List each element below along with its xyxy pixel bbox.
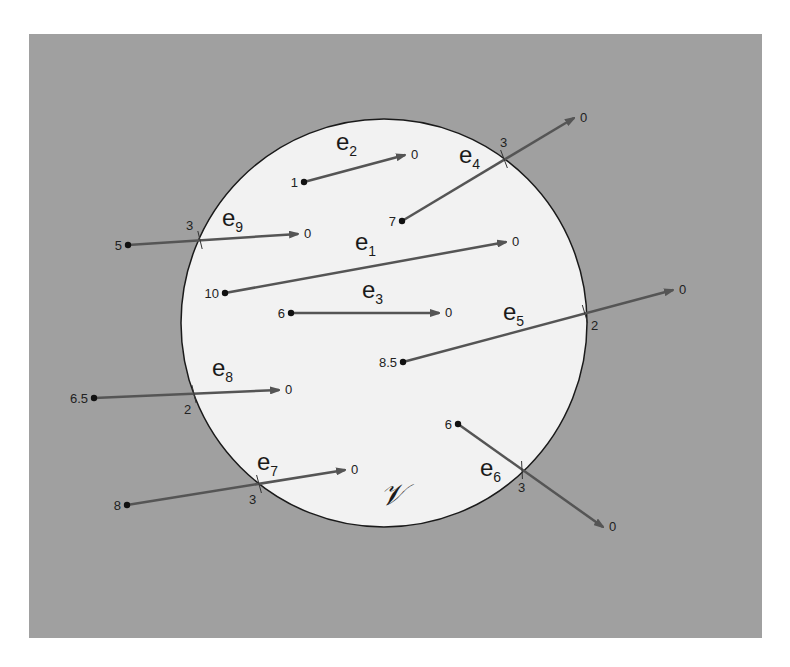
edge-end-value: 0 xyxy=(351,462,358,477)
boundary-crossing-value: 3 xyxy=(518,480,525,495)
edge-end-value: 0 xyxy=(411,147,418,162)
edge-start-value: 8.5 xyxy=(379,355,397,370)
edge-start-dot xyxy=(455,421,461,427)
edge-start-dot xyxy=(124,502,130,508)
boundary-crossing-value: 3 xyxy=(186,218,193,233)
edge-end-value: 0 xyxy=(609,519,616,534)
edge-start-dot xyxy=(400,359,406,365)
edge-end-value: 0 xyxy=(512,234,519,249)
boundary-crossing-value: 3 xyxy=(500,135,507,150)
edge-start-dot xyxy=(301,179,307,185)
edge-start-value: 7 xyxy=(389,214,396,229)
region-v xyxy=(181,119,587,527)
edge-start-dot xyxy=(91,395,97,401)
edge-end-value: 0 xyxy=(445,305,452,320)
edge-end-value: 0 xyxy=(580,110,587,125)
edge-start-value: 6 xyxy=(278,306,285,321)
edge-start-dot xyxy=(125,242,131,248)
edge-end-value: 0 xyxy=(679,282,686,297)
edge-start-value: 6.5 xyxy=(70,391,88,406)
edge-start-dot xyxy=(288,310,294,316)
edge-start-value: 5 xyxy=(115,238,122,253)
edge-end-value: 0 xyxy=(285,382,292,397)
edge-start-value: 6 xyxy=(445,417,452,432)
edge-start-value: 8 xyxy=(114,498,121,513)
edge-end-value: 0 xyxy=(304,226,311,241)
edge-start-value: 10 xyxy=(205,286,219,301)
edge-start-dot xyxy=(399,218,405,224)
boundary-crossing-value: 2 xyxy=(184,402,191,417)
edge-start-dot xyxy=(222,290,228,296)
edge-start-value: 1 xyxy=(291,175,298,190)
boundary-crossing-value: 3 xyxy=(249,492,256,507)
boundary-crossing-value: 2 xyxy=(591,318,598,333)
diagram-canvas: 𝒱 100e110e260e3703e48.502e5603e6803e76.5… xyxy=(0,0,790,667)
